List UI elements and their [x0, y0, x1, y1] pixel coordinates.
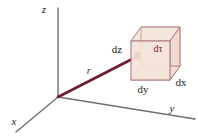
figure-canvas: z y x r dz dτ dy dx — [0, 0, 198, 140]
cube-front-face — [131, 41, 170, 80]
dz-label: dz — [112, 43, 123, 55]
diagram-svg: z y x r dz dτ dy dx — [0, 0, 198, 140]
dtau-label: dτ — [153, 43, 162, 54]
z-axis-label: z — [41, 3, 47, 15]
position-vector-label: r — [87, 64, 92, 76]
dx-label: dx — [176, 76, 188, 88]
y-axis-label: y — [169, 102, 175, 114]
position-vector-line — [58, 54, 142, 97]
x-axis-label: x — [11, 115, 17, 127]
x-axis-line — [16, 97, 58, 132]
dy-label: dy — [138, 83, 150, 95]
